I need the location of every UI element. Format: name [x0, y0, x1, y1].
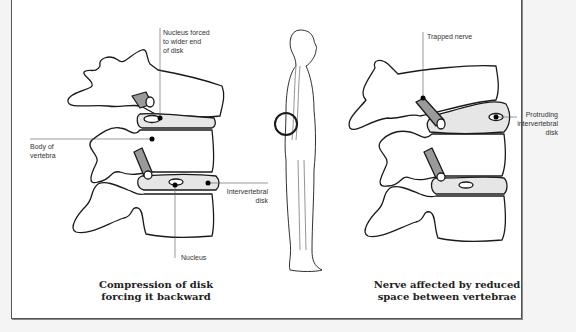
left-upper-vertebra [68, 50, 224, 117]
label-line: disk [222, 196, 268, 205]
label-line: disk [512, 128, 558, 137]
label-line: Nucleus forced [163, 28, 210, 37]
left-lower-vertebra [73, 183, 213, 238]
caption-right: Nerve affected by reduced space between … [362, 279, 532, 303]
label-protruding-disk: Protruding intervertebral disk [512, 110, 558, 137]
right-lower-vertebra [365, 187, 505, 242]
label-line: Intervertebral [222, 187, 268, 196]
caption-line: forcing it backward [76, 291, 236, 303]
label-nucleus-forced: Nucleus forced to wider end of disk [163, 28, 210, 55]
label-line: to wider end [163, 37, 210, 46]
caption-line: space between vertebrae [362, 291, 532, 303]
label-line: Protruding [512, 110, 558, 119]
label-body-of-vertebra: Body of vertebra [30, 142, 56, 160]
label-line: intervertebral [512, 119, 558, 128]
caption-line: Compression of disk [76, 279, 236, 291]
label-line: of disk [163, 46, 210, 55]
caption-left: Compression of disk forcing it backward [76, 279, 236, 303]
label-line: Body of [30, 142, 56, 151]
label-trapped-nerve: Trapped nerve [427, 32, 472, 41]
label-line: vertebra [30, 151, 56, 160]
label-intervertebral-disk: Intervertebral disk [222, 187, 268, 205]
human-figure [285, 30, 322, 272]
label-nucleus: Nucleus [181, 253, 206, 262]
caption-line: Nerve affected by reduced [362, 279, 532, 291]
